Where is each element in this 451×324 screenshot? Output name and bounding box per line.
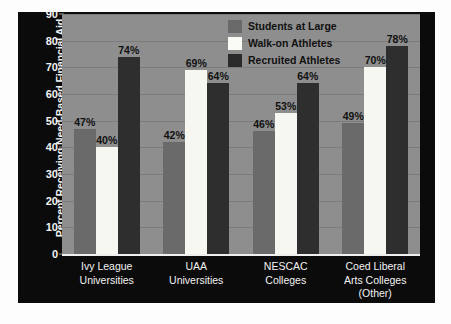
x-axis-category-labels: Ivy LeagueUniversitiesUAAUniversitiesNES… [62,260,420,312]
y-axis-tick-label: 0 [52,248,58,260]
bar[interactable] [163,142,185,254]
x-axis-category-label-line: Arts Colleges [320,274,430,288]
legend-label: Walk-on Athletes [248,37,332,49]
y-axis-tick-label: 60 [46,88,58,100]
y-axis-tick-label: 70 [46,61,58,73]
bar-group [163,14,229,254]
y-axis-tick-label: 90 [46,8,58,20]
y-axis-tick-label: 10 [46,221,58,233]
x-axis-category-label: Coed LiberalArts Colleges(Other) [320,260,430,301]
bar[interactable] [364,67,386,254]
legend-item[interactable]: Recruited Athletes [228,52,388,68]
bar[interactable] [297,83,319,254]
chart-legend: Students at LargeWalk-on AthletesRecruit… [228,18,388,69]
chart-figure: Percent Receiving Need-Based Financial A… [0,0,451,324]
chart-panel: Percent Receiving Need-Based Financial A… [18,12,435,303]
y-axis-tick-label: 30 [46,168,58,180]
legend-label: Students at Large [248,20,337,32]
bar[interactable] [386,46,408,254]
x-axis-category-label-line: (Other) [320,287,430,301]
legend-swatch-icon [228,37,242,50]
y-axis-tick-label: 50 [46,115,58,127]
x-axis-line [62,254,420,256]
bar[interactable] [207,83,229,254]
bar-group [74,14,140,254]
bar[interactable] [342,123,364,254]
bar[interactable] [74,129,96,254]
bar[interactable] [185,70,207,254]
legend-item[interactable]: Students at Large [228,18,388,34]
legend-swatch-icon [228,20,242,33]
bar[interactable] [96,147,118,254]
legend-item[interactable]: Walk-on Athletes [228,35,388,51]
y-axis-tick-label: 40 [46,141,58,153]
bar[interactable] [253,131,275,254]
bar[interactable] [275,113,297,254]
legend-label: Recruited Athletes [248,54,340,66]
y-axis-tick-label: 20 [46,195,58,207]
bar[interactable] [118,57,140,254]
x-axis-category-label-line: Coed Liberal [320,260,430,274]
y-axis-tick-label: 80 [46,35,58,47]
legend-swatch-icon [228,54,242,67]
